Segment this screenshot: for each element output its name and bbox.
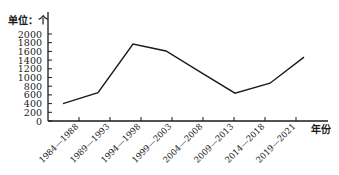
y-tick-label: 2000 xyxy=(18,29,42,40)
data-line xyxy=(63,44,304,104)
x-axis-label: 年份 xyxy=(311,123,332,135)
line-chart: 0200400600800100012001400160018002000198… xyxy=(0,0,339,175)
